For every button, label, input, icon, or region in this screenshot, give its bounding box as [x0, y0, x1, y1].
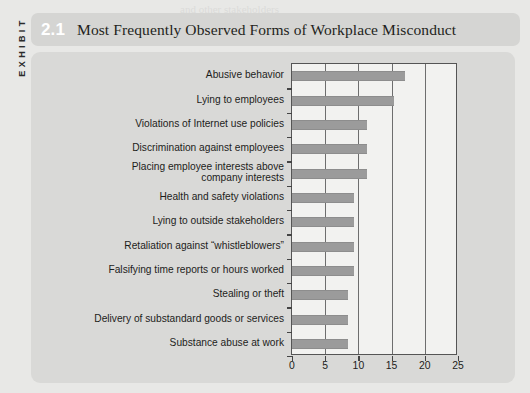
category-label: Delivery of substandard goods or service…	[25, 313, 290, 325]
category-label: Stealing or theft	[25, 288, 290, 300]
exhibit-side-label: EXHIBIT	[17, 1, 27, 93]
bar	[292, 71, 405, 81]
category-label: Lying to employees	[25, 94, 290, 106]
y-axis-tick	[287, 210, 292, 211]
x-axis-tick-label: 25	[452, 360, 464, 371]
bar	[292, 217, 354, 227]
category-label: Discrimination against employees	[25, 142, 290, 154]
chart-panel: Abusive behaviorLying to employeesViolat…	[31, 52, 515, 383]
bar	[292, 169, 367, 179]
y-axis-tick	[287, 234, 292, 235]
bar	[292, 96, 394, 106]
plot-area	[291, 63, 457, 355]
bar	[292, 144, 367, 154]
gridline	[392, 64, 393, 354]
x-axis-tick-label: 0	[289, 360, 295, 371]
x-axis-tick-label: 15	[386, 360, 398, 371]
y-axis-tick	[287, 307, 292, 308]
bar-chart: Abusive behaviorLying to employeesViolat…	[31, 52, 515, 383]
x-axis-tick-label: 10	[353, 360, 365, 371]
bar	[292, 120, 367, 130]
y-axis-tick	[287, 332, 292, 333]
bar	[292, 242, 354, 252]
bar	[292, 339, 348, 349]
gridline	[325, 64, 326, 354]
x-axis-tick-label: 5	[322, 360, 328, 371]
y-axis-tick	[287, 186, 292, 187]
category-label: Placing employee interests above company…	[25, 161, 290, 184]
exhibit-title: Most Frequently Observed Forms of Workpl…	[77, 21, 456, 39]
bar	[292, 315, 348, 325]
category-label: Falsifying time reports or hours worked	[25, 264, 290, 276]
y-axis-tick	[287, 137, 292, 138]
y-axis-tick	[287, 161, 292, 162]
y-axis-tick	[287, 113, 292, 114]
category-labels: Abusive behaviorLying to employeesViolat…	[31, 63, 290, 355]
y-axis-tick	[287, 88, 292, 89]
exhibit-header: 2.1 Most Frequently Observed Forms of Wo…	[31, 13, 520, 46]
category-label: Substance abuse at work	[25, 337, 290, 349]
category-label: Violations of Internet use policies	[25, 118, 290, 130]
exhibit-number-badge: 2.1	[31, 20, 75, 40]
category-label: Abusive behavior	[25, 69, 290, 81]
category-label: Lying to outside stakeholders	[25, 215, 290, 227]
y-axis-tick	[287, 259, 292, 260]
bar	[292, 266, 354, 276]
bar	[292, 193, 354, 203]
y-axis-tick	[287, 283, 292, 284]
gridline	[425, 64, 426, 354]
gridline	[358, 64, 359, 354]
bar	[292, 290, 348, 300]
category-label: Retaliation against “whistleblowers”	[25, 240, 290, 252]
x-axis-tick-label: 20	[419, 360, 431, 371]
category-label: Health and safety violations	[25, 191, 290, 203]
x-axis-tick-labels: 0510152025	[291, 360, 471, 376]
